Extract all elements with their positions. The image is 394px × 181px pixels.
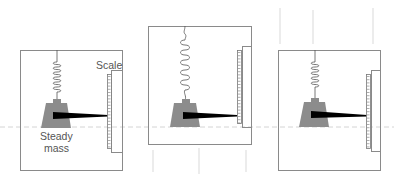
scale-ruler [367, 70, 382, 152]
pointer [183, 112, 237, 119]
spring-icon [181, 26, 190, 100]
mass-label-line2: mass [44, 142, 69, 154]
panel-accelerating-up [149, 26, 253, 174]
scale-label: Scale [96, 59, 122, 71]
elevator-spring-diagram: Scale Steady mass [0, 0, 394, 181]
pointer [53, 112, 108, 119]
spring-icon [311, 50, 319, 100]
scale-ruler [238, 46, 253, 128]
spring-icon [53, 50, 61, 100]
mass-label-line1: Steady [40, 130, 73, 142]
pointer [311, 111, 367, 118]
motion-lines-above [280, 8, 373, 44]
panel-accelerating-down [279, 8, 382, 171]
elevator-frame [279, 51, 381, 171]
scale-ruler [108, 70, 123, 153]
motion-lines-below [153, 148, 246, 174]
panel-at-rest: Scale Steady mass [21, 50, 123, 171]
